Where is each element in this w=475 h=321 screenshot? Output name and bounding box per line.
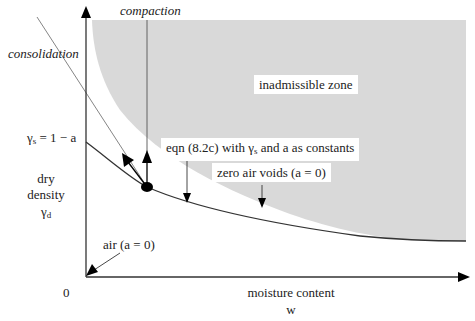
eqn-text-prefix: eqn (8.2c) with γ bbox=[166, 140, 254, 155]
y-axis-symbol: γd bbox=[22, 204, 70, 223]
y-axis-label: dry density γd bbox=[22, 171, 70, 223]
air-leader-arrow-icon bbox=[86, 264, 98, 276]
y-intercept-label: γs = 1 − a bbox=[27, 130, 76, 149]
inadmissible-zone-region bbox=[92, 20, 466, 241]
x-axis-arrow-icon bbox=[458, 272, 470, 282]
consolidation-arrow-shaft bbox=[128, 162, 147, 187]
y-axis-label-line2: density bbox=[22, 187, 70, 202]
air-label: air (a = 0) bbox=[103, 237, 155, 252]
eqn-label: eqn (8.2c) with γs and a as constants bbox=[161, 138, 359, 161]
eqn-leader-arrow-icon bbox=[183, 193, 191, 203]
x-axis-label: moisture content w bbox=[236, 285, 346, 317]
y-axis-arrow-icon bbox=[81, 6, 91, 18]
origin-label: 0 bbox=[63, 285, 70, 300]
inadmissible-zone-label: inadmissible zone bbox=[254, 75, 358, 94]
x-axis-symbol: w bbox=[236, 302, 346, 317]
consolidation-label: consolidation bbox=[8, 46, 79, 61]
zero-air-voids-label: zero air voids (a = 0) bbox=[212, 163, 331, 182]
compaction-arrow-icon bbox=[142, 150, 152, 163]
y-axis-label-line1: dry bbox=[22, 171, 70, 186]
x-axis-label-text: moisture content bbox=[236, 285, 346, 300]
air-leader-line bbox=[94, 253, 120, 270]
eqn-text-suffix: and a as constants bbox=[258, 140, 355, 155]
y-intercept-expression: = 1 − a bbox=[36, 130, 76, 145]
gamma-d-subscript: d bbox=[47, 210, 52, 220]
compaction-label: compaction bbox=[120, 3, 181, 18]
